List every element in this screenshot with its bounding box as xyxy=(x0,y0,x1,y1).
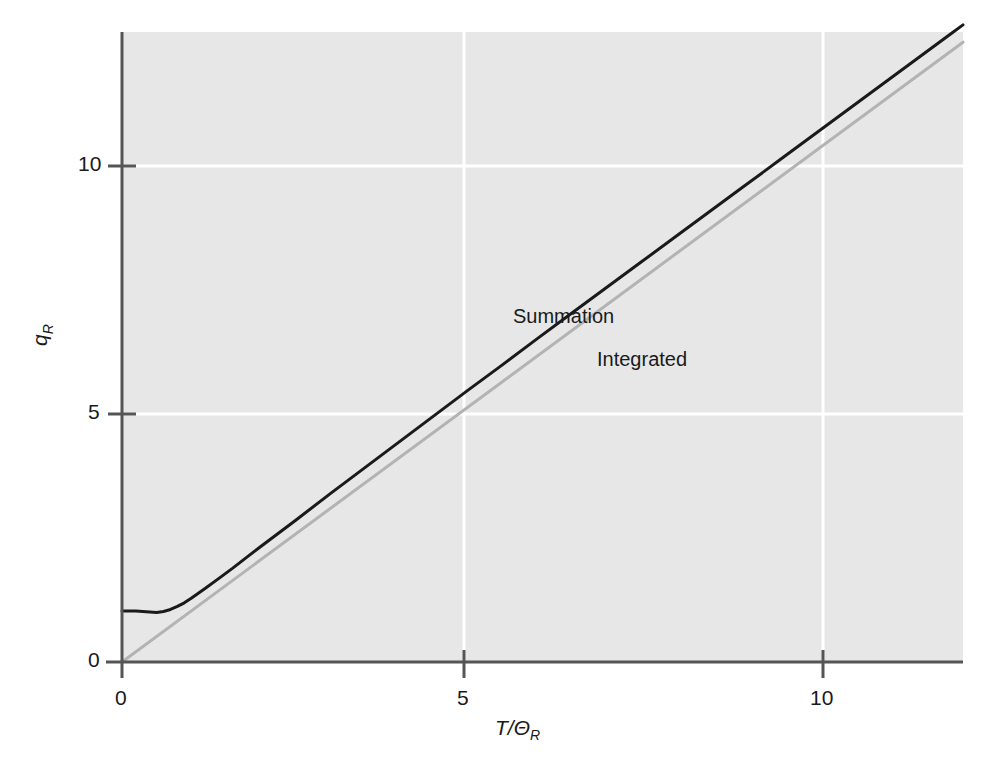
y-tick-label-0: 0 xyxy=(88,648,100,672)
x-tick-label-10: 10 xyxy=(810,686,833,710)
y-axis-title-base: q xyxy=(28,334,51,346)
curve-label-summation: Summation xyxy=(513,305,614,328)
y-axis-title-sub: R xyxy=(40,324,56,334)
x-axis-title-base: T/Θ xyxy=(495,716,530,739)
chart-figure: 10 5 0 0 5 10 qR T/ΘR Summation Integrat… xyxy=(0,0,992,771)
x-axis-title-sub: R xyxy=(530,727,540,743)
y-tick-label-10: 10 xyxy=(78,152,101,176)
x-tick-label-5: 5 xyxy=(457,686,469,710)
y-axis-title-wrap: qR xyxy=(22,300,62,370)
curve-label-integrated: Integrated xyxy=(597,348,687,371)
x-tick-label-0: 0 xyxy=(115,686,127,710)
x-axis-title: T/ΘR xyxy=(495,716,540,743)
y-tick-label-5: 5 xyxy=(88,400,100,424)
y-axis-title: qR xyxy=(28,324,55,346)
chart-canvas xyxy=(0,0,992,771)
